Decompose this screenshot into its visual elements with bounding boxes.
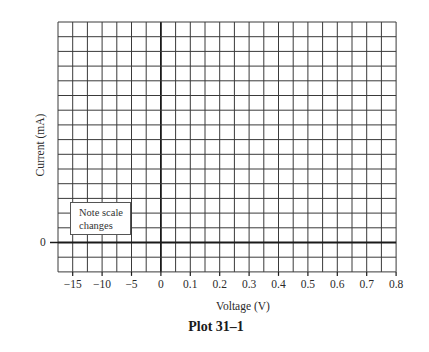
note-line-1: Note scale (79, 206, 130, 219)
x-tick: 0.4 (271, 278, 285, 290)
x-tick: −15 (64, 278, 82, 290)
note-scale-changes-box: Note scale changes (70, 202, 131, 235)
y-axis-label: Current (mA) (34, 114, 46, 177)
x-tick: 0.8 (389, 278, 403, 290)
plot-area (0, 0, 429, 352)
x-tick: −10 (93, 278, 111, 290)
note-line-2: changes (79, 219, 130, 232)
x-tick: 0.2 (213, 278, 227, 290)
x-axis-label: Voltage (V) (216, 300, 270, 312)
x-tick: 0.1 (183, 278, 197, 290)
x-tick: 0.5 (301, 278, 315, 290)
x-tick: −5 (125, 278, 137, 290)
x-tick: 0.6 (330, 278, 344, 290)
x-tick: 0.7 (360, 278, 374, 290)
y-tick-zero: 0 (40, 236, 46, 248)
x-tick: 0.3 (242, 278, 256, 290)
x-tick: 0 (158, 278, 164, 290)
chart-title: Plot 31–1 (188, 319, 244, 335)
